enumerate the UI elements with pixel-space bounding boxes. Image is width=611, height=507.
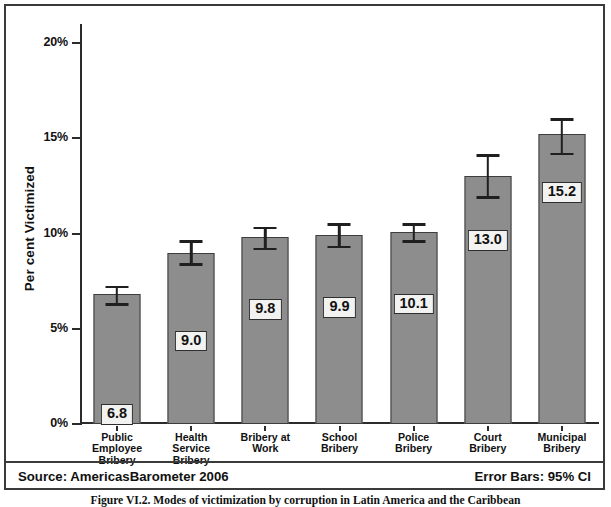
error-bar-cap-lower (550, 153, 573, 156)
error-bar-stem (487, 155, 489, 197)
bar-value-label: 13.0 (468, 230, 508, 250)
error-bar-stem (338, 224, 340, 247)
x-axis-label-line: Police (398, 431, 429, 443)
x-axis-label-line: Court (474, 431, 502, 443)
error-bar-cap-upper (550, 118, 573, 121)
error-bar-cap-upper (476, 154, 499, 157)
bar[interactable] (464, 176, 511, 424)
y-axis-tick-label: 5% (16, 321, 68, 335)
error-bar-stem (412, 224, 414, 241)
bar[interactable] (538, 134, 585, 424)
bar-value-label: 10.1 (394, 294, 434, 314)
x-axis-label-line: Employee (92, 442, 142, 454)
bar[interactable] (390, 232, 437, 424)
x-axis-label-line: Bribery (469, 442, 506, 454)
figure-footer: Source: AmericasBarometer 2006 Error Bar… (6, 463, 603, 490)
error-bar-cap-lower (106, 303, 129, 306)
y-axis-tick-label: 10% (16, 226, 68, 240)
bar[interactable] (242, 237, 289, 424)
bar-group[interactable]: 15.2 (525, 24, 599, 424)
source-label: Source: AmericasBarometer 2006 (18, 469, 229, 484)
chart-frame: Per cent Victimized 0%5%10%15%20% 6.89.0… (4, 4, 605, 490)
bar-group[interactable]: 9.9 (302, 24, 376, 424)
x-axis-label-line: School (322, 431, 357, 443)
error-bar-cap-upper (328, 223, 351, 226)
bar-group[interactable]: 6.8 (80, 24, 154, 424)
plot-area: Per cent Victimized 0%5%10%15%20% 6.89.0… (6, 6, 603, 461)
bar-value-label: 9.0 (175, 331, 207, 351)
x-axis-label-line: Health (175, 431, 207, 443)
error-bar-stem (264, 228, 266, 249)
error-bar-cap-upper (402, 223, 425, 226)
error-bar-cap-lower (180, 263, 203, 266)
x-axis-label-line: Service (172, 442, 210, 454)
bar-group[interactable]: 13.0 (451, 24, 525, 424)
y-axis-tick-label: 20% (16, 35, 68, 49)
x-axis-label-line: Bribery at (241, 431, 290, 443)
error-bar-stem (561, 119, 563, 153)
y-axis-tick-label: 15% (16, 130, 68, 144)
x-axis-label: MunicipalBribery (525, 432, 599, 455)
x-axis-label-line: Municipal (537, 431, 586, 443)
x-axis-label-line: Bribery (395, 442, 432, 454)
bars-layer: 6.89.09.89.910.113.015.2 (80, 24, 599, 424)
error-bar-cap-lower (328, 246, 351, 249)
x-axis-label: SchoolBribery (302, 432, 376, 455)
bar-value-label: 6.8 (101, 404, 133, 424)
x-axis-label-line: Bribery (543, 442, 580, 454)
error-bar-stem (190, 241, 192, 264)
error-bar-cap-lower (476, 196, 499, 199)
error-bar-cap-lower (402, 240, 425, 243)
error-bar-cap-upper (106, 286, 129, 289)
bar-value-label: 9.8 (249, 299, 281, 319)
y-axis-tick-label: 0% (16, 416, 68, 430)
bar-group[interactable]: 9.0 (154, 24, 228, 424)
x-axis-label: CourtBribery (451, 432, 525, 455)
bar-group[interactable]: 10.1 (377, 24, 451, 424)
bar-value-label: 9.9 (323, 297, 355, 317)
bar-group[interactable]: 9.8 (228, 24, 302, 424)
error-bar-cap-lower (254, 248, 277, 251)
x-axis-label: PoliceBribery (377, 432, 451, 455)
figure-caption: Figure VI.2. Modes of victimization by c… (0, 494, 611, 507)
error-bar-cap-upper (254, 227, 277, 230)
bar[interactable] (316, 235, 363, 424)
x-axis-labels: PublicEmployeeBriberyHealthServiceBriber… (80, 426, 599, 466)
x-axis-label-line: Public (101, 431, 133, 443)
error-bar-stem (116, 287, 118, 304)
error-bar-cap-upper (180, 240, 203, 243)
bar-value-label: 15.2 (542, 182, 582, 202)
x-axis-label: Bribery atWork (228, 432, 302, 455)
x-axis-label-line: Work (252, 442, 278, 454)
x-axis-label-line: Bribery (321, 442, 358, 454)
errorbar-note: Error Bars: 95% CI (474, 469, 591, 484)
